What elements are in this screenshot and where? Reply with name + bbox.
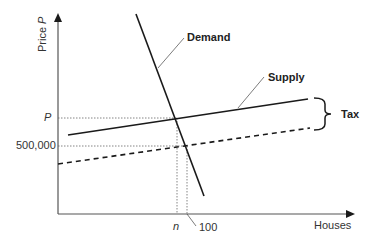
supply-line (68, 99, 308, 135)
y-axis (54, 13, 62, 214)
supply-label: Supply (268, 71, 305, 83)
tax-brace-icon (314, 98, 331, 130)
y-axis-arrow-icon (54, 13, 62, 22)
y-axis-label-var: P (36, 17, 48, 24)
x-axis-label: Houses (314, 219, 351, 231)
demand-leader-line (158, 38, 184, 68)
tax-label: Tax (341, 108, 359, 120)
y-axis-label-text: Price (36, 24, 48, 52)
demand-label: Demand (187, 31, 230, 43)
x-tick-n: n (173, 220, 179, 232)
supply-leader-line (238, 77, 264, 108)
tick-100-leader-line (187, 214, 196, 226)
y-axis-label: Price P (36, 17, 48, 52)
y-tick-p: P (44, 111, 51, 123)
supply-without-tax-line (58, 128, 310, 164)
x-axis-arrow-icon (346, 210, 355, 218)
x-tick-100: 100 (199, 221, 217, 233)
guide-lines (58, 118, 188, 214)
x-axis (58, 210, 355, 218)
y-tick-500000: 500,000 (16, 139, 56, 151)
